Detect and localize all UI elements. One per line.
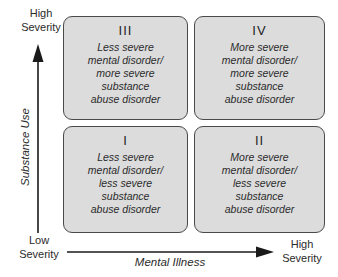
y-axis-arrow bbox=[33, 44, 44, 233]
quadrant-ii-text-line: mental disorder/ bbox=[195, 164, 324, 177]
quadrant-ii-numeral: II bbox=[195, 133, 324, 148]
x-axis-title: Mental Illness bbox=[125, 256, 215, 268]
quadrant-i-numeral: I bbox=[64, 133, 187, 148]
quadrant-iii-text-line: abuse disorder bbox=[64, 93, 187, 106]
quadrant-iii-box: III Less severe mental disorder/ more se… bbox=[63, 16, 188, 120]
quadrant-ii-text-line: abuse disorder bbox=[195, 203, 324, 216]
quadrant-iv-text-line: abuse disorder bbox=[195, 93, 324, 106]
quadrant-ii-text-line: More severe bbox=[195, 151, 324, 164]
quadrant-ii-text-line: substance bbox=[195, 190, 324, 203]
y-axis-title: Substance Use bbox=[19, 92, 31, 202]
quadrant-i-text-line: Less severe bbox=[64, 151, 187, 164]
quadrant-diagram: High Severity Low Severity High Severity… bbox=[0, 0, 338, 277]
quadrant-i-text-line: abuse disorder bbox=[64, 203, 187, 216]
quadrant-iii-text-line: Less severe bbox=[64, 41, 187, 54]
y-axis-low-severity-label: Low Severity bbox=[12, 233, 66, 261]
quadrant-iii-numeral: III bbox=[64, 23, 187, 38]
quadrant-iii-text-line: more severe bbox=[64, 67, 187, 80]
quadrant-iv-text-line: More severe bbox=[195, 41, 324, 54]
quadrant-i-box: I Less severe mental disorder/ less seve… bbox=[63, 126, 188, 233]
y-axis-high-severity-label: High Severity bbox=[14, 6, 68, 34]
quadrant-i-text-line: less severe bbox=[64, 177, 187, 190]
quadrant-iv-text-line: mental disorder/ bbox=[195, 54, 324, 67]
quadrant-ii-text-line: less severe bbox=[195, 177, 324, 190]
quadrant-iv-box: IV More severe mental disorder/ more sev… bbox=[194, 16, 325, 120]
quadrant-i-text-line: substance bbox=[64, 190, 187, 203]
x-axis-high-severity-label: High Severity bbox=[273, 237, 331, 265]
quadrant-iv-text-line: more severe bbox=[195, 67, 324, 80]
quadrant-i-text-line: mental disorder/ bbox=[64, 164, 187, 177]
quadrant-iii-text-line: mental disorder/ bbox=[64, 54, 187, 67]
quadrant-iv-text-line: substance bbox=[195, 80, 324, 93]
quadrant-iv-numeral: IV bbox=[195, 23, 324, 38]
quadrant-iii-text-line: substance bbox=[64, 80, 187, 93]
quadrant-ii-box: II More severe mental disorder/ less sev… bbox=[194, 126, 325, 233]
